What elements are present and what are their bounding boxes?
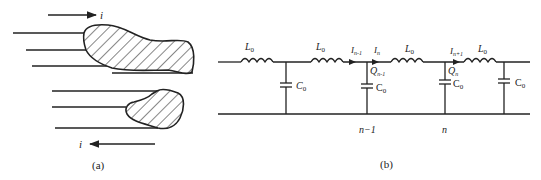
panel-b: L0 L0 L0 L0 C0 C0 C0 C0 In-1 In In+1 Qn-… <box>218 41 530 171</box>
capacitor-label: C0 <box>453 78 464 91</box>
current-label: In <box>373 45 380 56</box>
panel-a-caption: (a) <box>92 159 105 172</box>
inductor-icon <box>391 59 423 63</box>
inductor-label: L0 <box>315 41 326 54</box>
current-label-bottom: i <box>79 138 82 150</box>
figure-canvas: i i (a) <box>0 0 541 180</box>
panel-a: i i (a) <box>13 9 194 172</box>
lower-hatched-region <box>126 90 184 129</box>
inductor-icon <box>311 59 343 63</box>
capacitor-label: C0 <box>515 77 526 90</box>
capacitor-label: C0 <box>376 82 387 95</box>
node-label: n−1 <box>359 124 376 135</box>
capacitor-icon <box>280 62 292 114</box>
panel-b-caption: (b) <box>380 158 393 171</box>
inductor-label: L0 <box>477 43 488 56</box>
charge-label: Qn-1 <box>370 65 385 77</box>
current-label: In-1 <box>350 45 362 56</box>
inductor-label: L0 <box>244 41 255 54</box>
inductor-icon <box>241 59 273 63</box>
inductor-icon <box>464 59 496 63</box>
charge-label: Qn <box>448 65 458 77</box>
current-label: In+1 <box>449 46 463 57</box>
current-label-top: i <box>100 9 103 21</box>
node-label: n <box>442 124 447 135</box>
capacitor-icon <box>498 62 510 114</box>
capacitor-label: C0 <box>296 80 307 93</box>
current-arrow-icon <box>349 59 356 65</box>
inductor-label: L0 <box>404 43 415 56</box>
